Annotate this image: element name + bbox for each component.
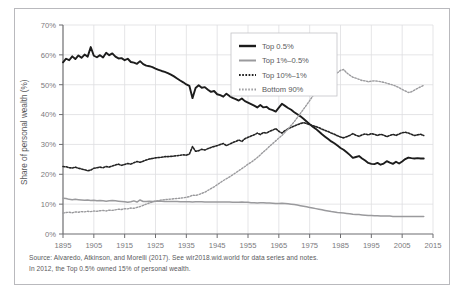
legend-label-3: Top 10%–1% bbox=[262, 71, 307, 80]
x-tick-label: 2005 bbox=[394, 241, 411, 249]
y-tick-label: 10% bbox=[41, 200, 56, 209]
wealth-share-line-chart: 0%10%20%30%40%50%60%70% 1895190519151925… bbox=[15, 9, 451, 249]
x-tick-label: 1985 bbox=[332, 241, 349, 249]
x-axis-ticks: 1895190519151925193519451955196519751985… bbox=[55, 234, 442, 249]
caption-note-line: In 2012, the Top 0.5% owned 15% of perso… bbox=[29, 263, 439, 274]
legend-label-2: Top 1%–0.5% bbox=[262, 56, 309, 65]
x-tick-label: 1915 bbox=[116, 241, 133, 249]
y-tick-label: 20% bbox=[41, 170, 56, 179]
x-tick-label: 2015 bbox=[425, 241, 442, 249]
x-tick-label: 1925 bbox=[147, 241, 164, 249]
x-tick-label: 1895 bbox=[55, 241, 72, 249]
y-axis-title: Share of personal wealth (%) bbox=[20, 79, 29, 185]
y-axis-ticks: 0%10%20%30%40%50%60%70% bbox=[41, 21, 63, 239]
x-tick-label: 1945 bbox=[209, 241, 226, 249]
y-tick-label: 0% bbox=[45, 230, 56, 239]
x-tick-label: 1905 bbox=[85, 241, 102, 249]
caption-source-line: Source: Alvaredo, Atkinson, and Morelli … bbox=[29, 252, 439, 263]
x-tick-label: 1935 bbox=[178, 241, 195, 249]
chart-legend: Top 0.5%Top 1%–0.5%Top 10%–1%Bottom 90% bbox=[231, 33, 337, 96]
x-tick-label: 1975 bbox=[301, 241, 318, 249]
y-tick-label: 30% bbox=[41, 140, 56, 149]
y-tick-label: 60% bbox=[41, 51, 56, 60]
x-tick-label: 1955 bbox=[240, 241, 257, 249]
chart-plot-area: 0%10%20%30%40%50%60%70% 1895190519151925… bbox=[15, 9, 451, 249]
y-tick-label: 40% bbox=[41, 110, 56, 119]
y-tick-label: 70% bbox=[41, 21, 56, 30]
y-tick-label: 50% bbox=[41, 81, 56, 90]
legend-label-4: Bottom 90% bbox=[262, 85, 304, 94]
figure-caption: Source: Alvaredo, Atkinson, and Morelli … bbox=[29, 252, 439, 274]
x-tick-label: 1965 bbox=[270, 241, 287, 249]
legend-label-1: Top 0.5% bbox=[262, 42, 294, 51]
x-tick-label: 1995 bbox=[363, 241, 380, 249]
figure-frame: 0%10%20%30%40%50%60%70% 1895190519151925… bbox=[14, 8, 450, 285]
